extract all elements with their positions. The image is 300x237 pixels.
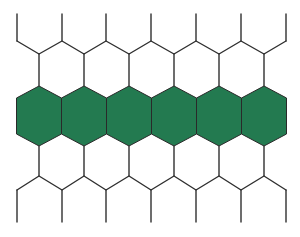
highlighted-hexagon <box>17 86 62 146</box>
top-lattice-lines <box>17 14 286 86</box>
highlighted-hexagon <box>62 86 107 146</box>
highlighted-hexagon <box>152 86 197 146</box>
bottom-lattice-lines <box>17 146 286 222</box>
highlighted-hexagon <box>107 86 152 146</box>
highlighted-hexagon <box>197 86 242 146</box>
hexagon-lattice-diagram <box>0 0 300 237</box>
highlighted-hexagon-row <box>17 86 287 146</box>
highlighted-hexagon <box>242 86 287 146</box>
lattice-zigzag <box>17 176 286 190</box>
lattice-zigzag <box>17 41 286 54</box>
